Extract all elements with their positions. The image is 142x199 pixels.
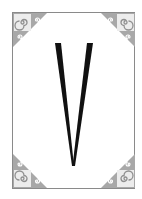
letter-v-glyph: V: [0, 0, 142, 199]
letter-v-icon: V: [0, 0, 142, 199]
